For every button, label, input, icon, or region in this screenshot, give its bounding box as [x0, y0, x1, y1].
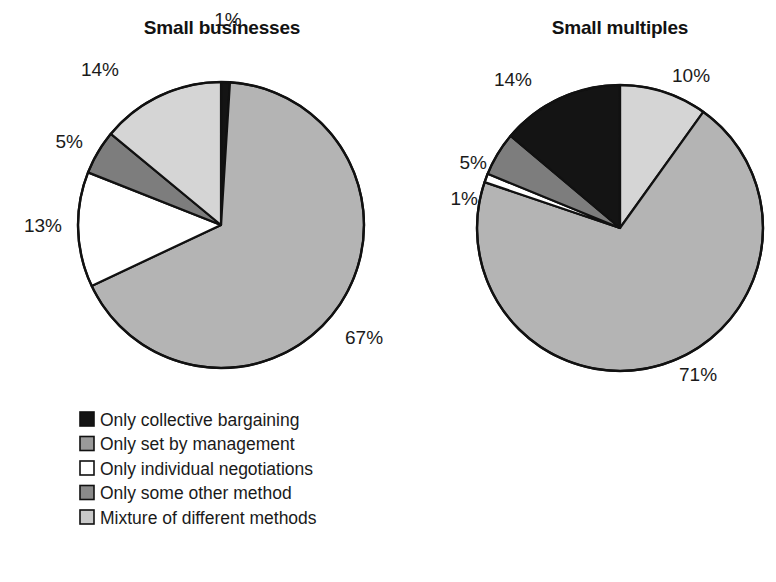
pie-label-right-management: 71% [679, 364, 717, 385]
pie-label-left-other: 5% [56, 131, 84, 152]
pie-chart-figure: Small businesses 1%67%13%5%14% Small mul… [0, 0, 776, 582]
legend-label-4: Mixture of different methods [100, 508, 317, 528]
chart-title-right: Small multiples [552, 17, 688, 38]
chart-legend: Only collective bargainingOnly set by ma… [80, 410, 317, 528]
pie-label-right-other: 5% [460, 152, 488, 173]
legend-swatch-1[interactable] [80, 437, 94, 451]
legend-label-1: Only set by management [100, 434, 295, 454]
legend-swatch-4[interactable] [80, 510, 94, 524]
legend-label-3: Only some other method [100, 483, 292, 503]
legend-swatch-0[interactable] [80, 412, 94, 426]
legend-swatch-2[interactable] [80, 461, 94, 475]
pie-label-left-mixture: 14% [81, 59, 119, 80]
pie-label-right-mixture: 10% [672, 65, 710, 86]
pie-label-left-individual: 13% [24, 215, 62, 236]
pie-label-left-management: 67% [345, 327, 383, 348]
legend-swatch-3[interactable] [80, 486, 94, 500]
pie-label-right-collective: 14% [494, 69, 532, 90]
pie-slices-left [78, 82, 364, 368]
pie-label-right-individual: 1% [451, 188, 479, 209]
pie-label-left-collective: 1% [214, 9, 242, 30]
legend-label-0: Only collective bargaining [100, 410, 299, 430]
legend-label-2: Only individual negotiations [100, 459, 313, 479]
pie-slices-right [477, 85, 763, 371]
